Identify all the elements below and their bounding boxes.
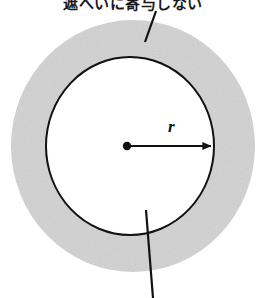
radius-label: r xyxy=(168,117,175,137)
annulus-caption: 遮へいに寄与しない xyxy=(0,0,266,13)
center-point xyxy=(123,142,131,150)
shielding-diagram: 遮へいに寄与しない r xyxy=(0,0,266,298)
diagram-canvas xyxy=(0,0,266,298)
